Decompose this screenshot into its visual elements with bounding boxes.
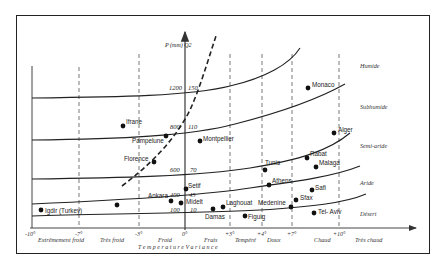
svg-text:Montpellier: Montpellier xyxy=(203,135,234,143)
svg-text:Sfax: Sfax xyxy=(300,194,313,201)
temperature-zone-labels: Extrêmement froid Très froid Froid Frais… xyxy=(37,236,383,243)
svg-text:Humide: Humide xyxy=(359,62,380,69)
svg-text:Safi: Safi xyxy=(315,184,326,191)
svg-text:Désert: Désert xyxy=(359,210,377,217)
svg-text:Medenine: Medenine xyxy=(258,199,286,206)
svg-text:Subhumide: Subhumide xyxy=(360,103,388,110)
humide-boundary xyxy=(32,48,300,98)
climagram: 1200 150 800 110 600 70 400 45 100 10 P … xyxy=(0,0,446,268)
svg-text:+7°: +7° xyxy=(287,231,297,237)
point-malaga xyxy=(314,165,319,170)
svg-text:Doux: Doux xyxy=(266,236,281,243)
svg-text:Athens: Athens xyxy=(272,177,292,184)
svg-text:+4°: +4° xyxy=(257,231,267,237)
svg-text:10: 10 xyxy=(190,206,197,213)
point-medenine xyxy=(289,205,294,210)
point-tunis xyxy=(263,168,268,173)
svg-text:Très chaud: Très chaud xyxy=(355,236,383,243)
svg-text:600: 600 xyxy=(170,166,181,173)
svg-text:100: 100 xyxy=(170,206,181,213)
svg-text:+3°: +3° xyxy=(225,231,235,237)
svg-text:Midelt: Midelt xyxy=(186,198,203,205)
point-telaviv xyxy=(312,211,317,216)
svg-text:150: 150 xyxy=(188,84,199,91)
svg-text:0°: 0° xyxy=(182,231,188,237)
point-safi xyxy=(310,188,315,193)
svg-text:Pampelune: Pampelune xyxy=(132,137,164,145)
svg-text:-10°: -10° xyxy=(25,231,36,237)
svg-text:+10°: +10° xyxy=(333,231,346,237)
svg-text:Laghouat: Laghouat xyxy=(226,199,253,207)
svg-text:110: 110 xyxy=(188,123,198,130)
svg-text:Semi-aride: Semi-aride xyxy=(360,142,387,149)
point-athens xyxy=(267,183,272,188)
point-midelt xyxy=(179,201,184,206)
svg-text:Monaco: Monaco xyxy=(312,81,335,88)
x-axis-label: T e m p e r a t u r e V a r i a n c e xyxy=(138,244,218,250)
y-tick-labels: 1200 150 800 110 600 70 400 45 100 10 xyxy=(169,84,199,213)
svg-text:Tunis: Tunis xyxy=(265,159,280,166)
svg-text:Aride: Aride xyxy=(359,179,374,186)
point-laghouat xyxy=(221,205,226,210)
point-ifrane xyxy=(121,124,126,129)
svg-text:Frais: Frais xyxy=(203,236,218,243)
svg-text:Chaud: Chaud xyxy=(314,236,331,243)
point-florence xyxy=(152,160,157,165)
svg-text:45: 45 xyxy=(189,191,196,198)
svg-text:Florence: Florence xyxy=(124,155,149,162)
svg-text:Malaga: Malaga xyxy=(319,159,340,167)
svg-text:-3°: -3° xyxy=(135,231,143,237)
point-igdir xyxy=(39,208,44,213)
point-pampelune xyxy=(164,134,169,139)
svg-text:Extrêmement froid: Extrêmement froid xyxy=(37,236,85,243)
svg-text:Rabat: Rabat xyxy=(310,150,327,157)
point-figuig xyxy=(243,214,248,219)
svg-text:Tempéré: Tempéré xyxy=(235,236,256,243)
svg-text:Ankara: Ankara xyxy=(148,192,168,199)
svg-text:400: 400 xyxy=(170,191,181,198)
svg-text:70: 70 xyxy=(190,166,197,173)
point-rabat xyxy=(305,156,310,161)
svg-text:Très froid: Très froid xyxy=(100,236,125,243)
point-alger xyxy=(332,131,337,136)
y-axis-label: P (mm) Q2 xyxy=(164,42,192,49)
climate-zone-labels: Humide Subhumide Semi-aride Aride Désert xyxy=(359,62,388,217)
svg-text:Igdir (Turkey): Igdir (Turkey) xyxy=(45,207,82,215)
svg-text:1200: 1200 xyxy=(169,84,183,91)
point-unlabeled xyxy=(115,203,120,208)
thermal-threshold-curve xyxy=(122,36,216,186)
point-sfax xyxy=(294,198,299,203)
point-ankara xyxy=(169,199,174,204)
svg-text:Setif: Setif xyxy=(188,182,201,189)
svg-text:Ifrane: Ifrane xyxy=(126,118,143,125)
svg-text:Damas: Damas xyxy=(205,213,225,220)
point-montpellier xyxy=(198,139,203,144)
point-monaco xyxy=(306,86,311,91)
point-damas xyxy=(211,207,216,212)
svg-text:Alger: Alger xyxy=(338,126,353,134)
svg-text:Froid: Froid xyxy=(157,236,173,243)
svg-text:800: 800 xyxy=(170,123,181,130)
svg-text:Figuig: Figuig xyxy=(248,213,266,221)
svg-text:Tel- Aviv: Tel- Aviv xyxy=(318,208,342,215)
